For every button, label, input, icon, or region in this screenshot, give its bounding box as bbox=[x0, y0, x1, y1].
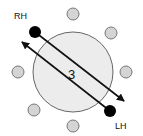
position-circle-upper-right bbox=[105, 27, 117, 39]
position-circle-left bbox=[12, 66, 24, 78]
lh-dancer-dot bbox=[104, 105, 116, 117]
rh-dancer-dot bbox=[29, 26, 41, 38]
position-circle-bottom bbox=[67, 120, 79, 132]
count-label: 3 bbox=[68, 67, 75, 82]
position-circle-lower-left bbox=[28, 104, 40, 116]
rh-label: RH bbox=[14, 11, 27, 21]
position-circle-top bbox=[67, 8, 79, 20]
position-circle-right bbox=[120, 66, 132, 78]
dance-position-diagram: RH LH 3 bbox=[0, 0, 143, 136]
lh-label: LH bbox=[115, 121, 127, 131]
diagram-canvas: RH LH 3 bbox=[0, 0, 143, 136]
